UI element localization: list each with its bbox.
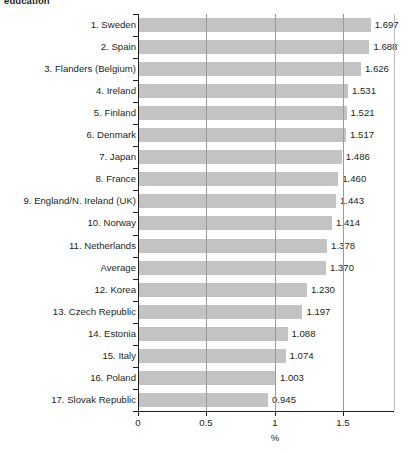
bar-row: 16. Poland1.003 <box>0 367 418 389</box>
bar-row: 15. Italy1.074 <box>0 345 418 367</box>
category-label: 17. Slovak Republic <box>51 395 136 405</box>
category-label: 12. Korea <box>94 285 136 295</box>
bar <box>139 283 307 297</box>
bar-row: 7. Japan1.486 <box>0 146 418 168</box>
x-axis-tick <box>206 411 207 416</box>
bar <box>139 194 336 208</box>
bar <box>139 84 348 98</box>
category-label: 7. Japan <box>99 153 136 163</box>
bar-value-label: 1.003 <box>280 373 304 383</box>
x-axis-tick-label: 0.5 <box>199 418 212 428</box>
y-axis-line <box>138 14 139 412</box>
bar-row: 12. Korea1.230 <box>0 279 418 301</box>
bar-chart: 1. Sweden1.6972. Spain1.6883. Flanders (… <box>0 0 418 454</box>
bar-value-label: 1.486 <box>346 153 370 163</box>
category-label: 9. England/N. Ireland (UK) <box>23 197 136 207</box>
category-label: 1. Sweden <box>91 20 136 30</box>
category-label: 11. Netherlands <box>69 241 136 251</box>
bar-row: 11. Netherlands1.378 <box>0 235 418 257</box>
bar <box>139 172 338 186</box>
bar-value-label: 1.460 <box>342 175 366 185</box>
bar <box>139 305 302 319</box>
bar <box>139 349 286 363</box>
bar <box>139 239 327 253</box>
bar-row: 14. Estonia1.088 <box>0 323 418 345</box>
bar-value-label: 1.414 <box>336 219 360 229</box>
bar <box>139 327 288 341</box>
bar-value-label: 1.531 <box>352 86 376 96</box>
bar-value-label: 1.517 <box>350 130 374 140</box>
category-label: 10. Norway <box>87 219 136 229</box>
bar-row: 6. Denmark1.517 <box>0 124 418 146</box>
bar <box>139 62 361 76</box>
gridline <box>275 14 276 411</box>
category-label: 4. Ireland <box>96 86 136 96</box>
bar-value-label: 1.370 <box>330 263 354 273</box>
category-label: Average <box>100 263 136 273</box>
bar-row: 8. France1.460 <box>0 168 418 190</box>
bar-row: 17. Slovak Republic0.945 <box>0 389 418 411</box>
gridline <box>206 14 207 411</box>
category-label: 16. Poland <box>90 373 136 383</box>
bar-value-label: 1.088 <box>292 329 316 339</box>
bar-row: Average1.370 <box>0 257 418 279</box>
x-axis-tick-label: 1.5 <box>336 418 349 428</box>
bar-row: 10. Norway1.414 <box>0 212 418 234</box>
category-label: 14. Estonia <box>88 329 136 339</box>
bar-value-label: 1.074 <box>290 351 314 361</box>
bar <box>139 40 369 54</box>
x-axis-tick <box>138 411 139 416</box>
x-axis-tick <box>343 411 344 416</box>
bar-row: 3. Flanders (Belgium)1.626 <box>0 58 418 80</box>
bar <box>139 393 268 407</box>
category-label: 15. Italy <box>102 351 136 361</box>
bar-row: 4. Ireland1.531 <box>0 80 418 102</box>
category-label: 6. Denmark <box>86 130 136 140</box>
bar-value-label: 1.521 <box>351 108 375 118</box>
bar <box>139 371 276 385</box>
bar <box>139 18 371 32</box>
bar <box>139 150 342 164</box>
bar <box>139 128 346 142</box>
category-label: 5. Finland <box>94 108 136 118</box>
gridline <box>343 14 344 411</box>
category-label: 13. Czech Republic <box>53 307 136 317</box>
bar-row: 9. England/N. Ireland (UK)1.443 <box>0 190 418 212</box>
x-axis-tick-label: 1 <box>272 418 277 428</box>
category-label: 3. Flanders (Belgium) <box>44 64 136 74</box>
bar-value-label: 1.626 <box>365 64 389 74</box>
bar-row: 1. Sweden1.697 <box>0 14 418 36</box>
bar <box>139 106 347 120</box>
x-axis-line <box>138 411 394 412</box>
bar <box>139 261 326 275</box>
category-label: 2. Spain <box>101 42 136 52</box>
bar <box>139 216 332 230</box>
plot-right-border <box>394 14 395 411</box>
bar-value-label: 1.230 <box>311 285 335 295</box>
x-axis-title: % <box>271 433 280 443</box>
bar-value-label: 1.197 <box>306 307 330 317</box>
category-label: 8. France <box>95 175 136 185</box>
x-axis-tick <box>275 411 276 416</box>
bar-row: 13. Czech Republic1.197 <box>0 301 418 323</box>
bar-value-label: 1.697 <box>375 20 399 30</box>
x-axis-tick-label: 0 <box>135 418 140 428</box>
bar-row: 2. Spain1.688 <box>0 36 418 58</box>
bar-row: 5. Finland1.521 <box>0 102 418 124</box>
